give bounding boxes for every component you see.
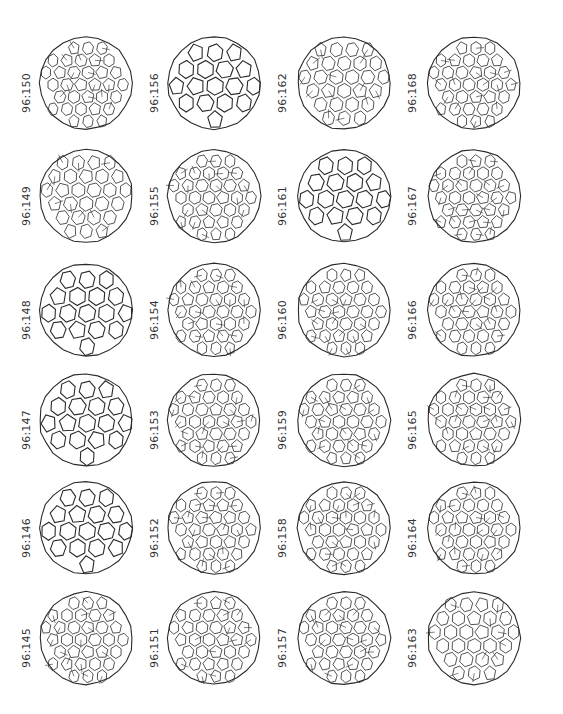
fullerene-diagram — [166, 148, 262, 244]
isomer-label: 96:164 — [406, 518, 419, 558]
fullerene-diagram — [296, 480, 392, 576]
isomer-label: 96:167 — [406, 186, 419, 226]
fullerene-diagram — [426, 590, 522, 686]
fullerene-diagram — [166, 35, 262, 131]
fullerene-diagram — [38, 372, 134, 468]
isomer-label: 96:160 — [276, 300, 289, 340]
isomer-label: 96:154 — [148, 300, 161, 340]
fullerene-diagram — [38, 148, 134, 244]
fullerene-diagram — [296, 148, 392, 244]
isomer-label: 96:157 — [276, 628, 289, 668]
isomer-label: 96:150 — [20, 73, 33, 113]
isomer-label: 96:151 — [148, 628, 161, 668]
isomer-label: 96:166 — [406, 300, 419, 340]
isomer-label: 96:153 — [148, 410, 161, 450]
isomer-label: 96:159 — [276, 410, 289, 450]
fullerene-diagram — [426, 148, 522, 244]
isomer-label: 96:152 — [148, 518, 161, 558]
fullerene-diagram — [166, 480, 262, 576]
fullerene-diagram — [296, 35, 392, 131]
isomer-label: 96:146 — [20, 518, 33, 558]
isomer-label: 96:168 — [406, 73, 419, 113]
fullerene-diagram — [296, 372, 392, 468]
isomer-label: 96:156 — [148, 73, 161, 113]
isomer-label: 96:163 — [406, 628, 419, 668]
isomer-label: 96:145 — [20, 628, 33, 668]
fullerene-diagram — [38, 262, 134, 358]
fullerene-diagram — [166, 372, 262, 468]
isomer-label: 96:165 — [406, 410, 419, 450]
fullerene-diagram — [426, 480, 522, 576]
isomer-label: 96:161 — [276, 186, 289, 226]
fullerene-diagram — [296, 590, 392, 686]
fullerene-diagram — [296, 262, 392, 358]
fullerene-diagram — [38, 35, 134, 131]
fullerene-diagram — [166, 590, 262, 686]
isomer-label: 96:148 — [20, 300, 33, 340]
isomer-label: 96:147 — [20, 410, 33, 450]
fullerene-diagram — [426, 35, 522, 131]
isomer-label: 96:155 — [148, 186, 161, 226]
fullerene-diagram — [38, 480, 134, 576]
fullerene-diagram — [166, 262, 262, 358]
isomer-label: 96:149 — [20, 186, 33, 226]
isomer-label: 96:162 — [276, 73, 289, 113]
isomer-label: 96:158 — [276, 518, 289, 558]
fullerene-diagram — [38, 590, 134, 686]
fullerene-diagram — [426, 372, 522, 468]
fullerene-diagram — [426, 262, 522, 358]
